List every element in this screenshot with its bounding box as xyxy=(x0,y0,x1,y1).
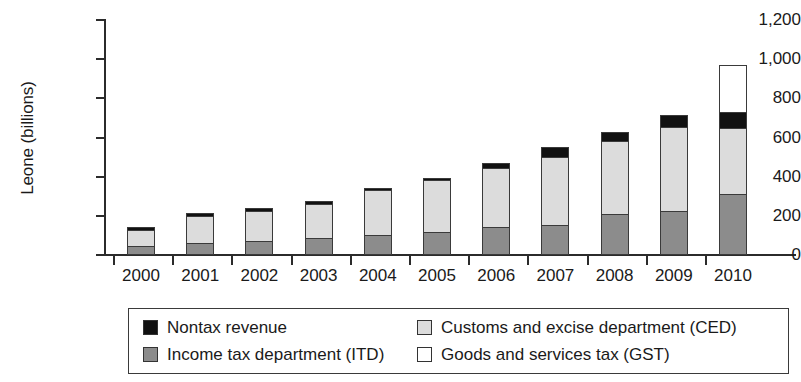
bar-segment xyxy=(364,235,392,255)
x-axis-tick xyxy=(468,256,470,265)
bar-segment xyxy=(660,127,688,211)
stacked-bar-chart: Leone (billions) 1,2001,0008006004002000… xyxy=(0,0,801,300)
bar-segment xyxy=(186,243,214,255)
x-axis-tick xyxy=(350,256,352,265)
bar-segment xyxy=(719,65,747,112)
bar-2007 xyxy=(541,147,569,255)
legend-item-goods-and-services-tax: Goods and services tax (GST) xyxy=(417,345,670,364)
bar-2010 xyxy=(719,65,747,255)
x-axis-tick-label: 2008 xyxy=(585,266,645,285)
x-axis-tick-label: 2002 xyxy=(229,266,289,285)
legend-label-customs-and-excise-department: Customs and excise department (CED) xyxy=(441,318,737,337)
bar-segment xyxy=(245,241,273,255)
bar-segment xyxy=(719,112,747,128)
bar-segment xyxy=(601,132,629,142)
bar-2004 xyxy=(364,188,392,255)
bar-segment xyxy=(186,216,214,243)
bar-segment xyxy=(601,214,629,255)
bar-segment xyxy=(601,141,629,213)
x-axis-tick xyxy=(705,256,707,265)
legend-label-nontax-revenue: Nontax revenue xyxy=(167,318,287,337)
bar-2003 xyxy=(305,201,333,255)
bar-2008 xyxy=(601,132,629,255)
x-axis-tick xyxy=(231,256,233,265)
bar-segment xyxy=(305,238,333,255)
bar-2009 xyxy=(660,115,688,255)
legend-label-goods-and-services-tax: Goods and services tax (GST) xyxy=(441,345,670,364)
x-axis-tick xyxy=(646,256,648,265)
bar-2001 xyxy=(186,213,214,255)
legend-swatch-icon-nontax-revenue xyxy=(143,320,158,335)
x-axis-tick-label: 2006 xyxy=(466,266,526,285)
y-axis-title: Leone (billions) xyxy=(18,38,38,238)
bar-segment xyxy=(364,190,392,235)
y-axis-tick xyxy=(96,97,104,99)
x-axis-tick-label: 2009 xyxy=(644,266,704,285)
legend-item-customs-and-excise-department: Customs and excise department (CED) xyxy=(417,318,737,337)
legend-swatch-icon-customs-and-excise-department xyxy=(417,320,432,335)
bar-2002 xyxy=(245,208,273,255)
bar-segment xyxy=(719,128,747,195)
legend-swatch-icon-income-tax-department xyxy=(143,347,158,362)
x-axis-tick-label: 2001 xyxy=(170,266,230,285)
x-axis-tick-label: 2005 xyxy=(407,266,467,285)
x-axis-tick xyxy=(291,256,293,265)
bar-segment xyxy=(482,168,510,227)
y-axis-tick xyxy=(96,137,104,139)
bar-segment xyxy=(423,180,451,232)
x-axis-tick-label: 2000 xyxy=(111,266,171,285)
x-axis-tick-label: 2010 xyxy=(703,266,763,285)
bar-segment xyxy=(541,147,569,157)
x-axis-tick xyxy=(527,256,529,265)
y-axis-tick xyxy=(96,215,104,217)
legend-swatch-icon-goods-and-services-tax xyxy=(417,347,432,362)
x-axis-tick xyxy=(113,256,115,265)
bar-segment xyxy=(541,157,569,225)
bar-segment xyxy=(719,194,747,255)
x-axis-tick xyxy=(172,256,174,265)
x-axis-tick xyxy=(409,256,411,265)
bar-segment xyxy=(660,211,688,255)
bar-segment xyxy=(127,246,155,255)
legend-label-income-tax-department: Income tax department (ITD) xyxy=(167,345,384,364)
x-axis-tick xyxy=(587,256,589,265)
bar-2000 xyxy=(127,227,155,255)
bar-segment xyxy=(541,225,569,255)
y-axis-tick xyxy=(96,176,104,178)
bar-segment xyxy=(482,227,510,255)
bar-segment xyxy=(127,230,155,247)
y-axis-tick xyxy=(96,58,104,60)
y-axis-tick xyxy=(96,254,104,256)
chart-legend: Nontax revenue Income tax department (IT… xyxy=(128,308,789,374)
bar-segment xyxy=(660,115,688,127)
bar-segment xyxy=(423,232,451,256)
legend-item-income-tax-department: Income tax department (ITD) xyxy=(143,345,384,364)
x-axis-tick-label: 2004 xyxy=(348,266,408,285)
legend-item-nontax-revenue: Nontax revenue xyxy=(143,318,287,337)
plot-area xyxy=(104,20,795,255)
bar-2005 xyxy=(423,178,451,255)
x-axis-tick-label: 2003 xyxy=(289,266,349,285)
bar-2006 xyxy=(482,163,510,255)
bar-segment xyxy=(305,204,333,238)
bar-segment xyxy=(245,211,273,241)
y-axis-tick xyxy=(96,19,104,21)
x-axis-tick-label: 2007 xyxy=(525,266,585,285)
